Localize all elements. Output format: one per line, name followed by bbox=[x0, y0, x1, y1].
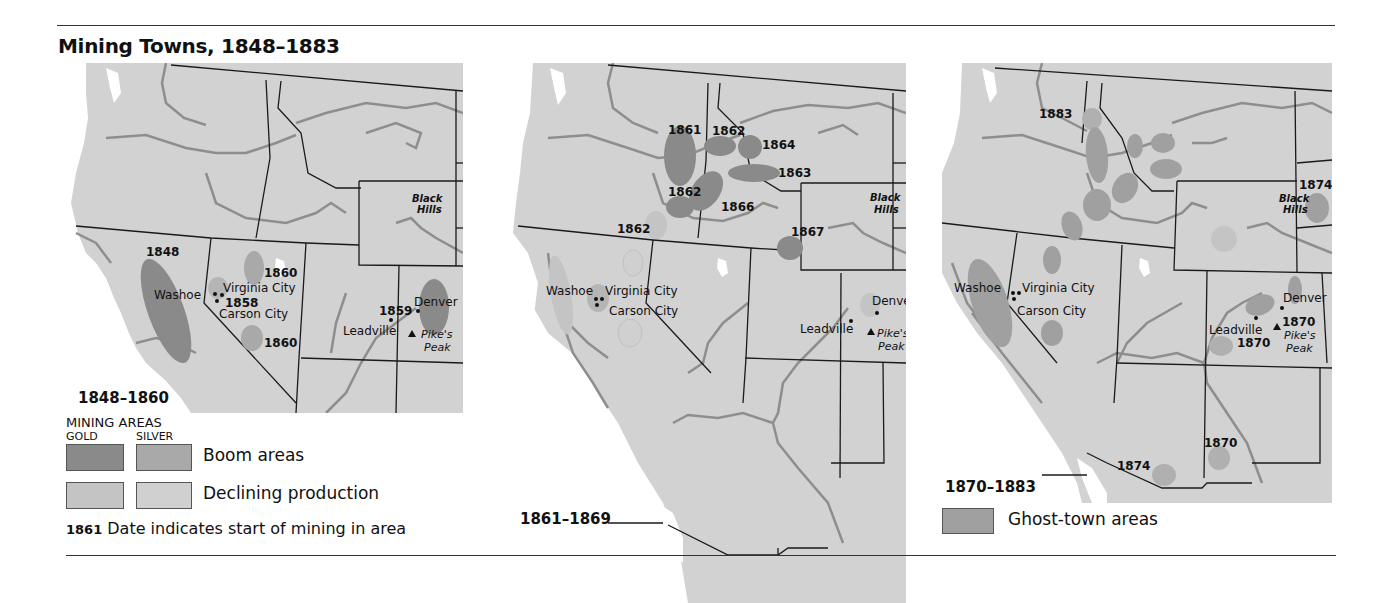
svg-text:Denver: Denver bbox=[872, 294, 906, 308]
svg-text:1874: 1874 bbox=[1117, 459, 1150, 473]
svg-text:Virginia City: Virginia City bbox=[223, 281, 296, 295]
svg-text:Hills: Hills bbox=[417, 204, 442, 215]
map-1848-1860: Black Hills 1848 1860 Washoe Virginia Ci… bbox=[66, 63, 463, 413]
bottom-rule bbox=[66, 555, 1336, 556]
svg-text:1870: 1870 bbox=[1204, 436, 1237, 450]
svg-text:1862: 1862 bbox=[668, 185, 701, 199]
svg-text:1860: 1860 bbox=[264, 266, 297, 280]
svg-text:Peak: Peak bbox=[1286, 342, 1313, 355]
svg-text:1862: 1862 bbox=[712, 124, 745, 138]
gold-declining-swatch bbox=[66, 482, 124, 509]
svg-text:Pike's: Pike's bbox=[421, 328, 453, 341]
svg-text:Pike's: Pike's bbox=[1284, 329, 1316, 342]
svg-text:Carson City: Carson City bbox=[1017, 304, 1086, 318]
page-title: Mining Towns, 1848–1883 bbox=[58, 34, 340, 58]
map-1861-1869: 1861 1862 1864 1863 1862 1866 1862 1867 … bbox=[508, 63, 906, 603]
svg-text:1861–1869: 1861–1869 bbox=[520, 510, 611, 528]
boom-areas-label: Boom areas bbox=[203, 445, 304, 465]
svg-text:1866: 1866 bbox=[721, 200, 754, 214]
svg-text:1860: 1860 bbox=[264, 336, 297, 350]
svg-text:1874: 1874 bbox=[1299, 178, 1332, 192]
svg-text:Hills: Hills bbox=[1283, 204, 1308, 215]
svg-text:Leadville: Leadville bbox=[800, 322, 853, 336]
svg-text:Carson City: Carson City bbox=[609, 304, 678, 318]
svg-text:Denver: Denver bbox=[414, 295, 458, 309]
mining-areas-legend: MINING AREAS GOLD SILVER Boom areas Decl… bbox=[66, 415, 466, 555]
legend-gold-label: GOLD bbox=[66, 430, 98, 443]
svg-text:1870: 1870 bbox=[1237, 336, 1270, 350]
svg-text:Peak: Peak bbox=[878, 340, 905, 353]
svg-text:Black: Black bbox=[870, 192, 902, 203]
svg-text:1870–1883: 1870–1883 bbox=[945, 478, 1036, 496]
svg-text:Leadville: Leadville bbox=[1209, 323, 1262, 337]
silver-boom-swatch bbox=[136, 444, 192, 471]
declining-production-label: Declining production bbox=[203, 483, 379, 503]
svg-text:Pike's: Pike's bbox=[877, 327, 906, 340]
ghost-town-label: Ghost-town areas bbox=[1008, 509, 1158, 529]
svg-text:Leadville: Leadville bbox=[343, 324, 396, 338]
svg-text:Washoe: Washoe bbox=[546, 284, 593, 298]
svg-text:Virginia City: Virginia City bbox=[1022, 281, 1095, 295]
svg-text:Black: Black bbox=[412, 193, 444, 204]
land-mass bbox=[71, 63, 463, 413]
svg-text:1862: 1862 bbox=[617, 222, 650, 236]
svg-text:Virginia City: Virginia City bbox=[605, 284, 678, 298]
svg-text:1864: 1864 bbox=[762, 138, 795, 152]
svg-text:1859: 1859 bbox=[379, 304, 412, 318]
svg-text:1848: 1848 bbox=[146, 245, 179, 259]
map-1870-1883: 1883 1874 Black Hills Washoe Virginia Ci… bbox=[942, 63, 1332, 503]
svg-text:Denver: Denver bbox=[1283, 291, 1327, 305]
svg-text:1848–1860: 1848–1860 bbox=[78, 389, 169, 407]
legend-silver-label: SILVER bbox=[136, 430, 173, 443]
date-note-text: Date indicates start of mining in area bbox=[107, 519, 406, 538]
date-example: 1861 bbox=[66, 522, 102, 537]
svg-text:1883: 1883 bbox=[1039, 107, 1072, 121]
svg-text:1870: 1870 bbox=[1282, 315, 1315, 329]
silver-declining-swatch bbox=[136, 482, 192, 509]
gold-boom-swatch bbox=[66, 444, 124, 471]
svg-text:1861: 1861 bbox=[668, 123, 701, 137]
date-note: 1861 Date indicates start of mining in a… bbox=[66, 519, 406, 538]
svg-text:1867: 1867 bbox=[791, 225, 824, 239]
svg-text:Hills: Hills bbox=[874, 204, 899, 215]
ghost-town-legend: Ghost-town areas bbox=[942, 505, 1342, 535]
svg-text:Carson City: Carson City bbox=[219, 307, 288, 321]
top-rule bbox=[57, 25, 1335, 26]
svg-text:Washoe: Washoe bbox=[954, 281, 1001, 295]
svg-text:Peak: Peak bbox=[424, 341, 451, 354]
svg-text:1863: 1863 bbox=[778, 166, 811, 180]
ghost-town-swatch bbox=[942, 508, 994, 534]
svg-text:Washoe: Washoe bbox=[154, 288, 201, 302]
legend-heading: MINING AREAS bbox=[66, 415, 162, 430]
svg-text:Black: Black bbox=[1279, 193, 1311, 204]
